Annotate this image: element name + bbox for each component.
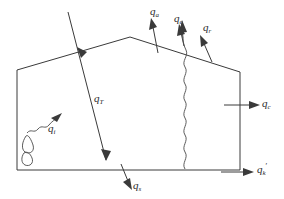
flux-arrow-qc	[224, 101, 260, 109]
label-qe-subscript: e	[180, 18, 183, 26]
label-qT-symbol: q	[94, 92, 100, 104]
squiggle-arrowhead	[51, 113, 62, 122]
cavity-lower-lobe	[22, 152, 33, 165]
cavity-upper-lobe	[22, 136, 33, 153]
wavy-flux-ray	[179, 20, 187, 169]
label-qe: qe	[174, 13, 183, 24]
label-qe-symbol: q	[174, 12, 180, 24]
wavy-ray-line	[183, 38, 187, 169]
incident-flux-ray	[68, 12, 111, 161]
label-qa-subscript: a	[156, 11, 160, 19]
label-qs-bottom-symbol: q	[133, 179, 139, 191]
label-qk-prime-mark: ′	[266, 162, 268, 171]
figure-canvas	[0, 0, 284, 199]
flux-arrow-qr	[200, 35, 212, 62]
label-qT: qT	[94, 93, 103, 104]
incident-ray-line	[68, 12, 106, 160]
qa-arrowhead	[149, 18, 157, 30]
label-qr-subscript: r	[209, 27, 212, 35]
label-qa-symbol: q	[150, 5, 156, 17]
label-qc-subscript: c	[268, 103, 271, 111]
energy-flux-diagram: qa qe qr qT qc qk′ qs qi	[0, 0, 284, 199]
qc-arrowhead	[249, 101, 260, 109]
label-qc-symbol: q	[262, 97, 268, 109]
qs-arrowhead	[123, 178, 132, 190]
label-qs-bottom-subscript: s	[139, 185, 142, 193]
label-qT-subscript: T	[100, 98, 104, 106]
polygon-body	[17, 37, 240, 170]
label-qi-symbol: q	[48, 122, 54, 134]
incident-ray-end-arrowhead	[101, 149, 111, 161]
label-qc: qc	[262, 98, 271, 109]
qk-prime-arrowhead	[243, 168, 254, 176]
label-qk-prime: qk′	[257, 164, 267, 175]
scattered-flux-squiggle	[27, 113, 62, 133]
flux-arrow-qs	[121, 164, 132, 190]
surface-cavity	[22, 136, 34, 166]
label-qk-symbol: q	[257, 163, 263, 175]
qr-arrowhead	[200, 35, 208, 47]
label-qr: qr	[203, 22, 211, 33]
label-qi-interior: qi	[48, 123, 55, 134]
label-qs-bottom: qs	[133, 180, 141, 191]
flux-arrow-qa	[149, 18, 158, 53]
flux-arrow-qk-prime	[221, 168, 254, 176]
label-qr-symbol: q	[203, 21, 209, 33]
label-qa: qa	[150, 6, 159, 17]
